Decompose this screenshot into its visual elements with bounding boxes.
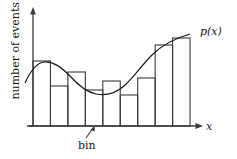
bar-2 — [50, 86, 67, 126]
bar-5 — [103, 81, 120, 126]
bar-1 — [33, 61, 50, 126]
bar-3 — [68, 72, 85, 126]
bar-7 — [138, 78, 155, 126]
y-axis-label: number of events — [10, 4, 21, 100]
bar-6 — [120, 95, 137, 126]
histogram-bars — [33, 38, 190, 126]
density-curve — [25, 34, 190, 95]
bar-4 — [85, 90, 102, 126]
x-axis-label: x — [206, 121, 212, 132]
bin-annotation-label: bin — [78, 140, 96, 151]
bin-pointer-arrow — [86, 126, 95, 138]
bar-9 — [173, 38, 190, 126]
bar-8 — [155, 45, 172, 126]
histogram-figure: number of events x p(x) bin — [0, 0, 237, 159]
curve-label-px: p(x) — [200, 26, 222, 37]
plot-canvas — [0, 0, 237, 159]
